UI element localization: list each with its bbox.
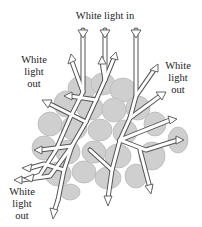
label-line: out (158, 84, 198, 96)
white-light-out-left-label: White light out (14, 54, 54, 90)
label-line: light (2, 198, 42, 210)
label-line: White (14, 54, 54, 66)
label-line: light (14, 66, 54, 78)
white-light-in-label: White light in (60, 10, 150, 22)
label-line: White (158, 60, 198, 72)
white-light-out-bottom-label: White light out (2, 186, 42, 222)
white-light-out-right-label: White light out (158, 60, 198, 96)
label-line: White (2, 186, 42, 198)
label-line: light (158, 72, 198, 84)
label-line: out (14, 78, 54, 90)
light-scattering-diagram: White light in White light out White lig… (0, 0, 202, 227)
label-text: White light in (60, 10, 150, 22)
label-line: out (2, 210, 42, 222)
